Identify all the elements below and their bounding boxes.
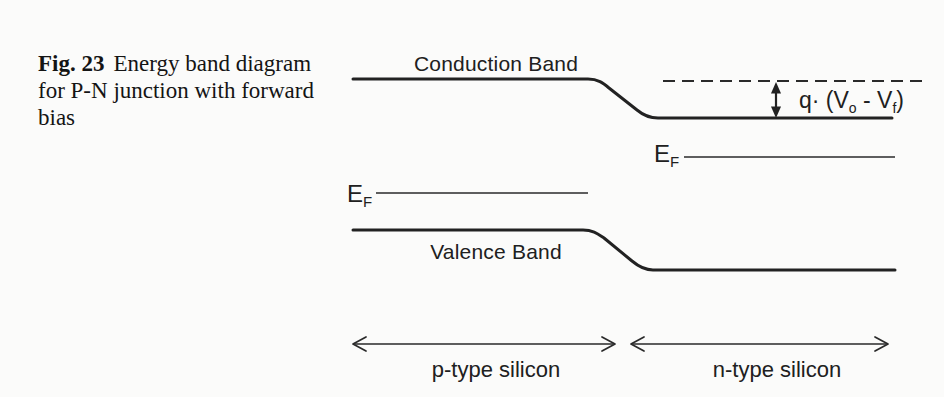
n-region-extent-arrow <box>631 337 888 351</box>
potential-difference-label: q· (Vo - Vf) <box>799 87 904 116</box>
potential-text: - V <box>857 87 893 113</box>
valence-band-label: Valence Band <box>346 240 646 264</box>
p-region-extent-arrow <box>353 337 615 351</box>
potential-subscript-o: o <box>849 100 857 116</box>
fermi-subscript: F <box>363 193 372 210</box>
fermi-symbol: E <box>347 180 363 207</box>
fermi-subscript: F <box>670 153 679 170</box>
p-region-label: p-type silicon <box>346 357 646 383</box>
conduction-band-label: Conduction Band <box>346 52 646 76</box>
fermi-level-label-n: EF <box>654 140 679 170</box>
fermi-symbol: E <box>654 140 670 167</box>
potential-text: q· (V <box>799 87 849 113</box>
potential-difference-arrow <box>771 82 781 118</box>
fermi-level-label-p: EF <box>347 180 372 210</box>
n-region-label: n-type silicon <box>632 357 922 383</box>
potential-text: ) <box>896 87 904 113</box>
energy-band-diagram-figure: Fig. 23Energy band diagram for P-N junct… <box>0 0 944 397</box>
